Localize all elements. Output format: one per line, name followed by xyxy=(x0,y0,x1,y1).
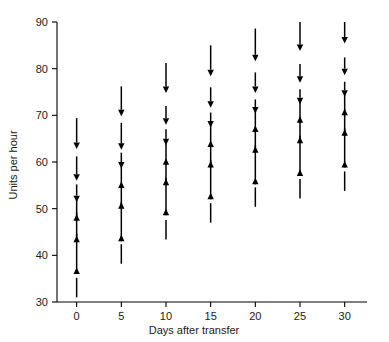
y-tick-label: 80 xyxy=(36,63,48,75)
x-tick-label: 0 xyxy=(74,310,80,322)
y-tick-label: 40 xyxy=(36,249,48,261)
x-tick-label: 25 xyxy=(294,310,306,322)
x-tick-label: 15 xyxy=(205,310,217,322)
x-tick-label: 10 xyxy=(160,310,172,322)
plot-background xyxy=(0,0,389,342)
y-tick-label: 70 xyxy=(36,109,48,121)
x-tick-label: 20 xyxy=(249,310,261,322)
y-tick-label: 90 xyxy=(36,16,48,28)
x-axis-title: Days after transfer xyxy=(149,324,240,336)
y-tick-label: 60 xyxy=(36,156,48,168)
y-tick-label: 50 xyxy=(36,203,48,215)
arrow-scatter-chart: 30405060708090 051015202530 Days after t… xyxy=(0,0,389,342)
x-tick-label: 30 xyxy=(339,310,351,322)
chart-container: 30405060708090 051015202530 Days after t… xyxy=(0,0,389,342)
y-tick-label: 30 xyxy=(36,296,48,308)
x-tick-label: 5 xyxy=(118,310,124,322)
y-axis-title: Units per hour xyxy=(7,130,19,199)
